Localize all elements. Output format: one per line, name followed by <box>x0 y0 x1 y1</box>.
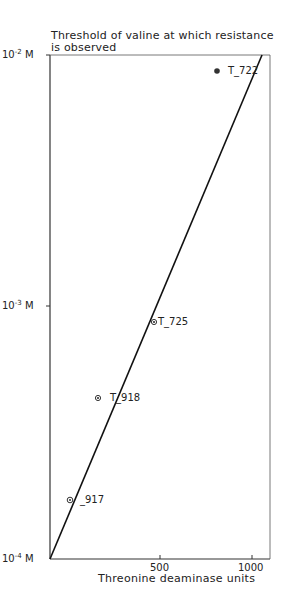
regression-line <box>50 55 262 559</box>
point-label-917: _917 <box>80 494 104 505</box>
y-label-1e-4: 10-4 M <box>2 552 34 564</box>
y-label-1e-2: 10-2 M <box>2 48 34 60</box>
data-point-t725 <box>151 319 156 324</box>
point-label-t722: T_722 <box>228 65 258 76</box>
plot-area <box>0 0 290 609</box>
point-label-t918: T_918 <box>110 392 140 403</box>
data-point-917 <box>67 497 73 503</box>
data-point-t722 <box>214 68 220 74</box>
data-point-t918 <box>95 395 100 400</box>
point-label-t725: T_725 <box>158 316 188 327</box>
x-axis-label: Threonine deaminase units <box>98 572 255 585</box>
y-label-1e-3: 10-3 M <box>2 299 34 311</box>
